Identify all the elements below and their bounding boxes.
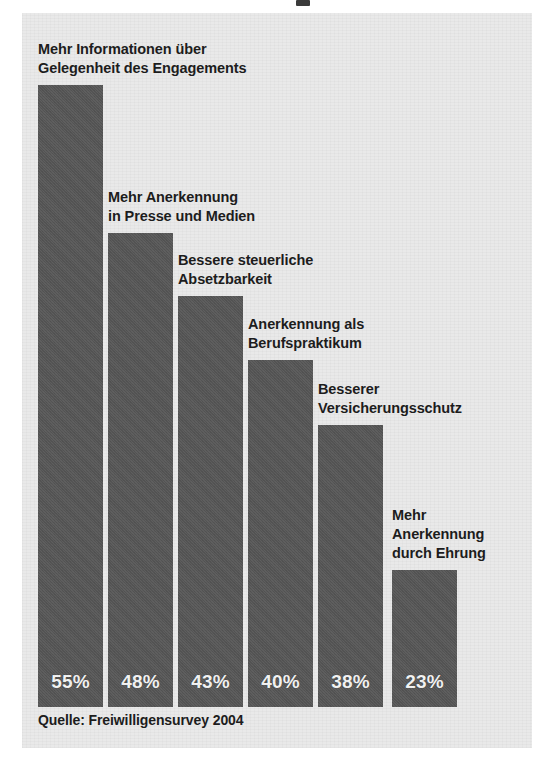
bar-value-2: 48% bbox=[108, 671, 173, 693]
plot-area: Mehr Informationen über Gelegenheit des … bbox=[22, 13, 532, 748]
bar-label-4-line1: Anerkennung als bbox=[248, 315, 364, 334]
bar-2: 48% bbox=[108, 233, 173, 707]
bar-label-6-line3: durch Ehrung bbox=[392, 544, 486, 563]
bar-label-1-line1: Mehr Informationen über bbox=[38, 40, 246, 59]
source-note: Quelle: Freiwilligensurvey 2004 bbox=[38, 712, 243, 728]
bar-label-5: Besserer Versicherungsschutz bbox=[318, 380, 462, 418]
bar-label-4: Anerkennung als Berufspraktikum bbox=[248, 315, 364, 353]
bar-1: 55% bbox=[38, 85, 103, 707]
bar-label-3-line2: Absetzbarkeit bbox=[178, 270, 313, 289]
bar-label-2-line2: in Presse und Medien bbox=[108, 207, 255, 226]
bar-value-3: 43% bbox=[178, 671, 243, 693]
bar-label-3-line1: Bessere steuerliche bbox=[178, 251, 313, 270]
bar-label-5-line2: Versicherungsschutz bbox=[318, 399, 462, 418]
bar-label-1: Mehr Informationen über Gelegenheit des … bbox=[38, 40, 246, 78]
bar-6: 23% bbox=[392, 570, 457, 707]
bar-chart: Mehr Informationen über Gelegenheit des … bbox=[22, 13, 532, 748]
bar-value-4: 40% bbox=[248, 671, 313, 693]
bar-label-2-line1: Mehr Anerkennung bbox=[108, 188, 255, 207]
bar-label-4-line2: Berufspraktikum bbox=[248, 334, 364, 353]
bar-label-6-line2: Anerkennung bbox=[392, 525, 486, 544]
bar-5: 38% bbox=[318, 425, 383, 707]
bar-3: 43% bbox=[178, 296, 243, 707]
bar-label-6-line1: Mehr bbox=[392, 506, 486, 525]
bar-label-5-line1: Besserer bbox=[318, 380, 462, 399]
bar-value-6: 23% bbox=[392, 671, 457, 693]
bar-label-1-line2: Gelegenheit des Engagements bbox=[38, 59, 246, 78]
bar-value-1: 55% bbox=[38, 671, 103, 693]
bar-label-6: Mehr Anerkennung durch Ehrung bbox=[392, 506, 486, 563]
bar-label-3: Bessere steuerliche Absetzbarkeit bbox=[178, 251, 313, 289]
scan-artifact-top bbox=[296, 0, 310, 6]
bar-value-5: 38% bbox=[318, 671, 383, 693]
bar-label-2: Mehr Anerkennung in Presse und Medien bbox=[108, 188, 255, 226]
bar-4: 40% bbox=[248, 360, 313, 707]
